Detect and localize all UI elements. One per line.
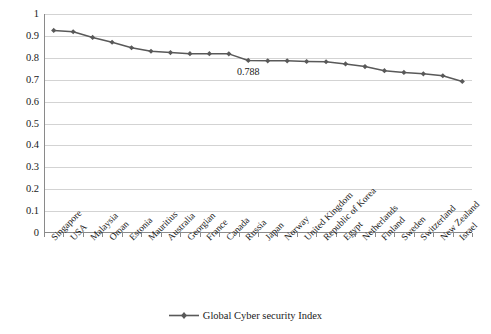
data-point-marker — [460, 79, 465, 84]
line-chart: 10.90.80.70.60.50.40.30.20.10 0.788 Sing… — [0, 0, 491, 334]
data-point-marker — [109, 40, 114, 45]
legend-line-diamond-icon — [169, 311, 199, 320]
data-point-marker — [304, 59, 309, 64]
y-axis-tick-label: 0.6 — [26, 96, 39, 107]
y-axis-tick-label: 0.3 — [26, 162, 39, 173]
data-point-marker — [90, 35, 95, 40]
data-point-marker — [362, 64, 367, 69]
y-axis-tick-label: 0.2 — [26, 184, 39, 195]
data-point-marker — [148, 49, 153, 54]
legend-entry-label: Global Cyber security Index — [203, 310, 322, 321]
y-axis-tick-label: 1 — [34, 9, 39, 20]
data-point-marker — [285, 58, 290, 63]
y-axis-tick-label: 0.4 — [26, 140, 39, 151]
data-point-value-label: 0.788 — [237, 67, 260, 77]
data-point-marker — [168, 50, 173, 55]
series-plot — [44, 14, 472, 233]
data-point-marker — [265, 58, 270, 63]
data-point-marker — [187, 51, 192, 56]
plot-area: 10.90.80.70.60.50.40.30.20.10 0.788 — [44, 14, 472, 233]
y-axis-tick-label: 0 — [34, 228, 39, 239]
data-point-marker — [421, 71, 426, 76]
y-axis-tick-label: 0.7 — [26, 74, 39, 85]
data-point-marker — [207, 51, 212, 56]
data-point-marker — [71, 29, 76, 34]
y-axis-tick-label: 0.1 — [26, 206, 39, 217]
data-point-marker — [382, 68, 387, 73]
data-point-marker — [226, 51, 231, 56]
data-point-marker — [440, 73, 445, 78]
x-axis-category-labels: SingaporeUSAMalaysiaOmanEstoniaMauritius… — [44, 236, 472, 312]
data-point-marker — [401, 70, 406, 75]
data-point-marker — [129, 45, 134, 50]
y-axis-tick-label: 0.5 — [26, 118, 39, 129]
chart-legend: Global Cyber security Index — [0, 310, 491, 321]
data-point-marker — [343, 61, 348, 66]
data-point-marker — [51, 28, 56, 33]
y-axis-tick-label: 0.9 — [26, 31, 39, 42]
y-axis-tick-label: 0.8 — [26, 53, 39, 64]
data-point-marker — [246, 58, 251, 63]
data-point-marker — [323, 59, 328, 64]
